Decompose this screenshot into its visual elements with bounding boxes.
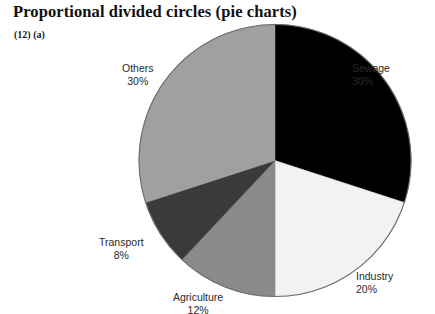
pie-label-others: Others 30% <box>122 62 154 87</box>
pie-label-others-value: 30% <box>122 75 154 88</box>
pie-label-industry: Industry 20% <box>356 270 393 295</box>
pie-label-industry-value: 20% <box>356 283 393 296</box>
pie-label-sewage-value: 30% <box>352 75 390 88</box>
pie-label-sewage: Sewage 30% <box>352 62 390 87</box>
page-root: Proportional divided circles (pie charts… <box>0 0 435 314</box>
pie-label-agriculture: Agriculture 12% <box>173 291 223 314</box>
pie-label-transport: Transport 8% <box>99 236 144 261</box>
pie-chart: Sewage 30% Industry 20% Agriculture 12% … <box>0 0 435 314</box>
pie-label-agriculture-name: Agriculture <box>173 291 223 304</box>
pie-label-others-name: Others <box>122 62 154 75</box>
pie-label-industry-name: Industry <box>356 270 393 283</box>
pie-label-agriculture-value: 12% <box>173 304 223 314</box>
pie-chart-svg <box>0 0 435 314</box>
pie-label-transport-name: Transport <box>99 236 144 249</box>
pie-label-sewage-name: Sewage <box>352 62 390 75</box>
pie-label-transport-value: 8% <box>99 249 144 262</box>
